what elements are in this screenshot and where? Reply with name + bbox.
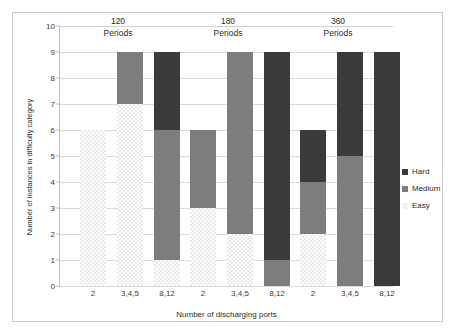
bar-360-8-12[interactable]: [374, 52, 400, 286]
legend-label-hard: Hard: [412, 167, 429, 176]
bar-segment-easy: [154, 260, 180, 286]
gridline-0: [60, 286, 393, 287]
y-tick-mark-4: [56, 182, 60, 183]
bar-segment-medium: [337, 156, 363, 286]
x-tick-label-360-8-12: 8,12: [364, 289, 410, 298]
y-tick-label-3: 3: [51, 204, 55, 213]
plot-area: 012345678910 23,4,58,1223,4,58,1223,4,58…: [60, 26, 393, 286]
y-tick-label-5: 5: [51, 152, 55, 161]
bar-segment-hard: [154, 52, 180, 130]
legend-label-medium: Medium: [412, 184, 440, 193]
bar-segment-easy: [117, 104, 143, 286]
bar-120-3-4-5[interactable]: [117, 52, 143, 286]
legend-item-medium[interactable]: Medium: [402, 180, 440, 197]
legend-swatch-easy-icon: [402, 203, 408, 209]
x-axis-title: Number of discharging ports: [60, 310, 393, 319]
bar-segment-hard: [337, 52, 363, 156]
y-tick-mark-5: [56, 156, 60, 157]
group-header-360: 360Periods: [298, 15, 378, 39]
y-axis-title: Number of instances in difficulty catego…: [25, 99, 34, 236]
y-tick-label-8: 8: [51, 74, 55, 83]
chart-figure-frame: Number of instances in difficulty catego…: [12, 12, 443, 322]
y-tick-label-6: 6: [51, 126, 55, 135]
legend-label-easy: Easy: [412, 201, 430, 210]
group-header-unit: Periods: [78, 27, 158, 39]
y-tick-mark-0: [56, 286, 60, 287]
legend-item-hard[interactable]: Hard: [402, 163, 440, 180]
bar-segment-medium: [190, 130, 216, 208]
y-tick-mark-3: [56, 208, 60, 209]
y-tick-label-10: 10: [46, 22, 55, 31]
bar-360-2[interactable]: [300, 130, 326, 286]
bar-segment-medium: [227, 52, 253, 234]
bar-segment-easy: [300, 234, 326, 286]
y-tick-mark-8: [56, 78, 60, 79]
bar-segment-hard: [374, 52, 400, 286]
y-tick-label-4: 4: [51, 178, 55, 187]
bar-360-3-4-5[interactable]: [337, 52, 363, 286]
y-tick-mark-6: [56, 130, 60, 131]
bar-120-2[interactable]: [80, 130, 106, 286]
group-header-unit: Periods: [188, 27, 268, 39]
y-tick-mark-7: [56, 104, 60, 105]
bar-segment-medium: [117, 52, 143, 104]
bar-180-3-4-5[interactable]: [227, 52, 253, 286]
legend-item-easy[interactable]: Easy: [402, 197, 440, 214]
y-tick-label-0: 0: [51, 282, 55, 291]
y-tick-mark-2: [56, 234, 60, 235]
bar-segment-easy: [190, 208, 216, 286]
y-tick-label-7: 7: [51, 100, 55, 109]
legend-swatch-hard-icon: [402, 169, 408, 175]
group-header-value: 120: [78, 15, 158, 27]
legend-swatch-medium-icon: [402, 186, 408, 192]
y-tick-mark-1: [56, 260, 60, 261]
chart-legend: Hard Medium Easy: [402, 163, 440, 214]
group-header-180: 180Periods: [188, 15, 268, 39]
bar-180-8-12[interactable]: [264, 52, 290, 286]
y-tick-label-2: 2: [51, 230, 55, 239]
group-header-value: 180: [188, 15, 268, 27]
bar-120-8-12[interactable]: [154, 52, 180, 286]
y-tick-mark-10: [56, 26, 60, 27]
bar-segment-hard: [264, 52, 290, 260]
bar-180-2[interactable]: [190, 130, 216, 286]
bar-segment-medium: [300, 182, 326, 234]
bar-segment-easy: [80, 130, 106, 286]
group-header-unit: Periods: [298, 27, 378, 39]
bar-segment-hard: [300, 130, 326, 182]
bar-segment-medium: [154, 130, 180, 260]
y-tick-label-9: 9: [51, 48, 55, 57]
group-header-120: 120Periods: [78, 15, 158, 39]
bar-segment-easy: [227, 234, 253, 286]
bar-segment-medium: [264, 260, 290, 286]
group-header-value: 360: [298, 15, 378, 27]
y-tick-label-1: 1: [51, 256, 55, 265]
y-tick-mark-9: [56, 52, 60, 53]
